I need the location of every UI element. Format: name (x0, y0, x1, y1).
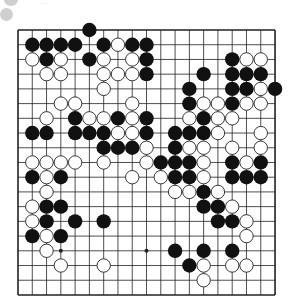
black-stone (254, 155, 268, 169)
black-stone (68, 126, 82, 140)
black-stone (54, 199, 68, 213)
black-stone (182, 155, 196, 169)
white-stone (26, 53, 39, 66)
white-stone (240, 53, 253, 66)
white-stone (211, 97, 224, 110)
white-stone (126, 53, 139, 66)
black-stone (54, 38, 68, 52)
white-stone (240, 97, 253, 110)
white-stone (197, 259, 210, 272)
black-stone (111, 111, 125, 125)
white-stone (240, 215, 253, 228)
black-stone (39, 52, 53, 66)
white-stone (197, 97, 210, 110)
white-stone (111, 67, 124, 80)
white-stone (83, 112, 96, 125)
black-stone (96, 141, 110, 155)
star-point (145, 249, 149, 253)
black-stone (139, 38, 153, 52)
white-stone (97, 82, 110, 95)
black-stone (82, 126, 96, 140)
white-stone (254, 53, 267, 66)
white-stone (240, 229, 253, 242)
black-stone (182, 82, 196, 96)
black-stone (225, 52, 239, 66)
black-stone (196, 244, 210, 258)
white-stone (140, 141, 153, 154)
white-stone (68, 156, 81, 169)
black-stone (225, 96, 239, 110)
black-stone (125, 38, 139, 52)
black-stone (182, 258, 196, 272)
white-stone (26, 200, 39, 213)
white-stone (183, 185, 196, 198)
white-stone (254, 141, 267, 154)
white-stone (54, 156, 67, 169)
black-stone (225, 155, 239, 169)
black-stone (25, 38, 39, 52)
black-stone (182, 170, 196, 184)
black-stone (139, 111, 153, 125)
go-board[interactable] (0, 0, 294, 308)
white-stone (197, 171, 210, 184)
black-stone (39, 38, 53, 52)
black-stone (254, 170, 268, 184)
white-stone (54, 259, 67, 272)
black-stone (211, 199, 225, 213)
black-stone (268, 82, 282, 96)
black-stone (225, 67, 239, 81)
white-stone (226, 141, 239, 154)
white-stone (211, 126, 224, 139)
white-stone (26, 156, 39, 169)
white-stone (211, 185, 224, 198)
white-stone (40, 112, 53, 125)
black-stone (254, 67, 268, 81)
white-stone (40, 171, 53, 184)
black-stone (82, 52, 96, 66)
white-stone (40, 185, 53, 198)
white-stone (97, 53, 110, 66)
black-stone (225, 244, 239, 258)
black-stone (168, 244, 182, 258)
black-stone (82, 23, 96, 37)
white-stone (168, 185, 181, 198)
white-stone (183, 112, 196, 125)
white-stone (126, 67, 139, 80)
white-stone (254, 126, 267, 139)
black-stone (196, 126, 210, 140)
black-stone (25, 170, 39, 184)
white-stone (140, 156, 153, 169)
white-stone (40, 156, 53, 169)
white-stone (183, 141, 196, 154)
white-stone (40, 229, 53, 242)
white-stone (26, 215, 39, 228)
white-stone (226, 112, 239, 125)
white-stone (240, 259, 253, 272)
black-stone (225, 214, 239, 228)
black-stone (182, 126, 196, 140)
black-stone (154, 155, 168, 169)
white-stone (97, 156, 110, 169)
black-stone (239, 67, 253, 81)
black-stone (196, 199, 210, 213)
black-stone (225, 170, 239, 184)
white-stone (197, 156, 210, 169)
black-stone (168, 170, 182, 184)
black-stone (25, 126, 39, 140)
white-stone (97, 67, 110, 80)
black-stone (68, 214, 82, 228)
black-stone (239, 170, 253, 184)
white-stone (40, 67, 53, 80)
white-stone (254, 97, 267, 110)
black-stone (168, 126, 182, 140)
black-stone (196, 111, 210, 125)
black-stone (239, 82, 253, 96)
white-stone (40, 244, 53, 257)
black-stone (39, 214, 53, 228)
white-stone (111, 38, 124, 51)
black-stone (54, 170, 68, 184)
white-stone (226, 259, 239, 272)
white-stone (126, 97, 139, 110)
white-stone (197, 141, 210, 154)
white-stone (126, 171, 139, 184)
